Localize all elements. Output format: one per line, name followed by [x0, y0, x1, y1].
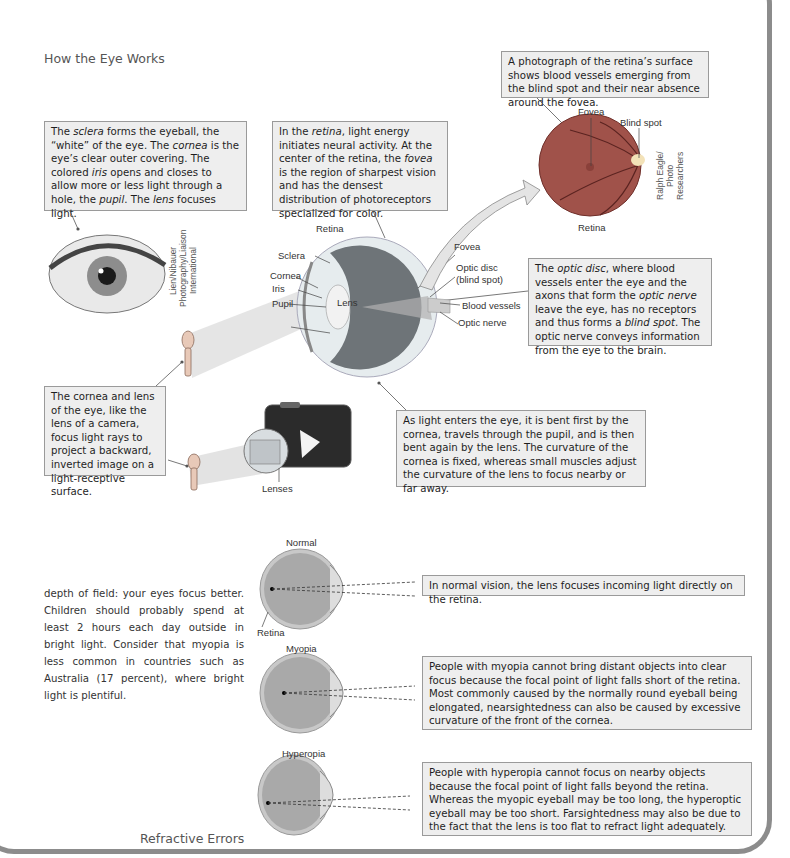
label-optic-nerve: Optic nerve [458, 317, 507, 328]
label-myopia: Myopia [286, 643, 317, 654]
label-blood-vessels: Blood vessels [462, 300, 521, 311]
label-lens: Lens [337, 297, 358, 308]
myopia-eye-diagram [260, 653, 415, 733]
label-cornea: Cornea [270, 270, 301, 281]
eye-photo-credit: Lien/Nibauer Photography/Liaison Interna… [168, 235, 202, 307]
label-pupil: Pupil [272, 298, 293, 309]
label-fovea: Fovea [454, 241, 480, 252]
photo-label-retina: Retina [578, 222, 605, 233]
eye-photo [49, 235, 165, 313]
label-sclera: Sclera [278, 250, 305, 261]
label-blind-spot: (blind spot) [456, 274, 503, 285]
label-normal: Normal [286, 537, 317, 548]
photo-label-blind-spot: Blind spot [620, 117, 662, 128]
illustration-layer [0, 0, 790, 858]
label-iris: Iris [272, 283, 285, 294]
label-optic-disc: Optic disc [456, 262, 498, 273]
hyperopia-eye-diagram [258, 755, 410, 835]
normal-eye-diagram [260, 549, 415, 629]
label-lenses: Lenses [262, 483, 293, 494]
retina-photo [539, 114, 645, 216]
photo-label-fovea: Fovea [578, 106, 604, 117]
camera-illustration [244, 402, 351, 473]
label-retina: Retina [316, 223, 343, 234]
label-hyperopia: Hyperopia [282, 748, 325, 759]
label-normal-retina: Retina [257, 627, 284, 638]
retina-photo-credit: Ralph Eagle/ Photo Researchers [655, 140, 679, 212]
